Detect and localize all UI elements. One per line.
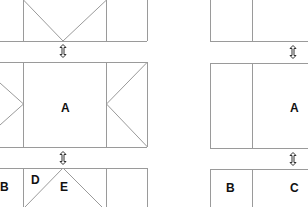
resize-handle-icon[interactable] [289, 152, 297, 166]
label-panel-d: D [31, 174, 40, 186]
resize-handle-icon[interactable] [59, 44, 67, 58]
left-bottom-panel [0, 168, 148, 207]
label-panel-b: B [226, 182, 235, 194]
label-panel-a: A [61, 102, 70, 114]
label-panel-c: C [290, 182, 299, 194]
left-middle-panel [0, 62, 148, 148]
label-panel-b: B [0, 181, 9, 193]
label-panel-a: A [290, 102, 299, 114]
resize-handle-icon[interactable] [59, 151, 67, 165]
label-panel-e: E [60, 181, 68, 193]
right-top-panel [210, 0, 308, 42]
left-top-panel [0, 0, 148, 42]
diagram-canvas [0, 0, 308, 207]
resize-handle-icon[interactable] [289, 45, 297, 59]
